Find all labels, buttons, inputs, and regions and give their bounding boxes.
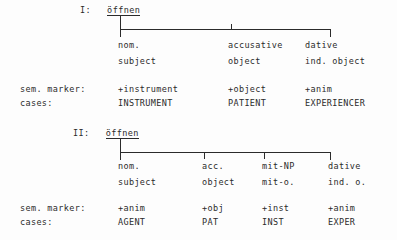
tree-branch-tick-3 <box>330 29 331 37</box>
valency-diagram-1: I: öffnen nom. accusative dative subject… <box>0 0 397 120</box>
tree-branch-tick-2 <box>231 24 232 30</box>
branch-sem-marker: +object <box>228 84 266 94</box>
row-label-sem-marker: sem. marker: <box>20 203 86 213</box>
branch-function-label: mit-o. <box>262 177 295 187</box>
tree-branch-tick-1 <box>120 29 121 37</box>
branch-case-role: PATIENT <box>228 98 266 108</box>
branch-case-label: mit-NP <box>262 161 295 171</box>
branch-sem-marker: +anim <box>328 203 355 213</box>
row-label-sem-marker: sem. marker: <box>20 84 86 94</box>
branch-case-role: INSTRUMENT <box>118 98 173 108</box>
branch-case-label: dative <box>305 40 338 50</box>
branch-case-label: accusative <box>228 40 283 50</box>
branch-function-label: ind. o. <box>328 177 366 187</box>
branch-function-label: subject <box>118 56 156 66</box>
branch-case-label: nom. <box>118 161 140 171</box>
branch-sem-marker: +inst <box>262 203 289 213</box>
branch-case-role: INST <box>262 217 284 227</box>
diagram-2-numeral: II: <box>73 128 90 138</box>
branch-function-label: subject <box>118 177 156 187</box>
diagram-1-verb: öffnen <box>107 5 140 16</box>
branch-sem-marker: +anim <box>305 84 332 94</box>
row-label-cases: cases: <box>20 217 53 227</box>
document-page: I: öffnen nom. accusative dative subject… <box>0 0 397 240</box>
diagram-2-title: II: öffnen <box>73 128 139 139</box>
branch-function-label: object <box>202 177 235 187</box>
branch-case-label: acc. <box>202 161 224 171</box>
tree-branch-tick-1 <box>120 152 121 160</box>
branch-case-role: EXPER <box>328 217 355 227</box>
branch-sem-marker: +obj <box>202 203 224 213</box>
branch-case-label: nom. <box>118 40 140 50</box>
tree-stem <box>120 139 121 152</box>
tree-branch-tick-4 <box>330 152 331 160</box>
branch-case-role: AGENT <box>118 217 145 227</box>
diagram-2-verb: öffnen <box>106 128 139 139</box>
branch-sem-marker: +instrument <box>118 84 178 94</box>
tree-horizontal-bar <box>120 152 331 153</box>
branch-function-label: object <box>228 56 261 66</box>
diagram-1-numeral: I: <box>80 5 91 15</box>
diagram-1-title: I: öffnen <box>80 5 140 16</box>
row-label-cases: cases: <box>20 98 53 108</box>
branch-case-label: dative <box>328 161 361 171</box>
branch-case-role: PAT <box>202 217 218 227</box>
valency-diagram-2: II: öffnen nom. acc. mit-NP dative subje… <box>0 120 397 240</box>
tree-branch-tick-2 <box>204 152 205 159</box>
tree-branch-tick-3 <box>264 152 265 159</box>
tree-horizontal-bar <box>120 29 331 30</box>
branch-case-role: EXPERIENCER <box>305 98 365 108</box>
branch-sem-marker: +anim <box>118 203 145 213</box>
tree-stem <box>120 16 121 29</box>
branch-function-label: ind. object <box>305 56 365 66</box>
